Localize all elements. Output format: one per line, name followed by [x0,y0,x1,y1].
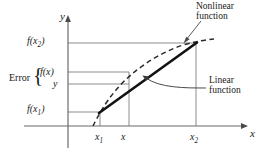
linear-label-line2: function [209,86,241,96]
fx1-paren: ) [41,103,44,114]
error-brace-icon: { [33,65,43,86]
value-label-fx1: f(x1) [27,104,44,117]
y-axis-label: y [60,11,65,22]
x1-subscript: 1 [99,137,103,145]
fx2-paren: ) [41,35,44,46]
interpolation-error-figure: y x f(x2) f(x) y f(x1) Error { x1 x x2 N… [0,0,265,159]
x-axis [24,123,248,129]
nonlinear-label-line2: function [196,12,234,22]
value-label-y: y [53,79,57,89]
linear-annotation-arrow [143,75,207,88]
nonlinear-function-label: Nonlinear function [196,2,234,21]
error-label: Error [9,73,30,83]
tick-label-x2: x2 [190,132,198,145]
tick-label-x1: x1 [95,132,103,145]
x2-subscript: 2 [194,137,198,145]
fx2-base: f(x [27,35,38,46]
nonlinear-annotation-arrow [184,21,202,43]
y-axis [65,15,71,148]
x-axis-label: x [250,128,255,139]
tick-label-x: x [121,132,125,142]
linear-function-label: Linear function [209,76,241,95]
value-label-fx2: f(x2) [27,36,44,49]
fx1-base: f(x [27,103,38,114]
